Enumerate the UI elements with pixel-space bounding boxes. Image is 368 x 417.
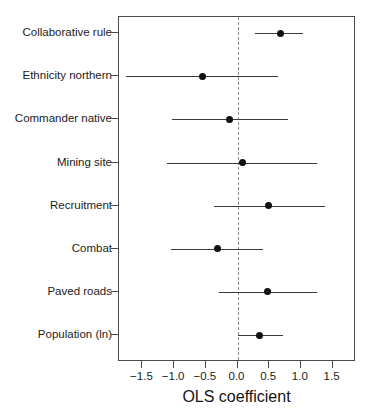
y-axis-tick — [111, 32, 118, 33]
point-estimate-marker — [226, 116, 233, 123]
y-axis-tick — [111, 291, 118, 292]
page-bleed-text — [0, 410, 368, 417]
x-axis-tick — [300, 361, 301, 368]
y-axis-label-paved-roads: Paved roads — [0, 285, 112, 297]
x-axis-tick — [205, 361, 206, 368]
plot-area — [118, 16, 355, 361]
y-axis-label-mining-site: Mining site — [0, 156, 112, 168]
y-axis-tick — [111, 118, 118, 119]
y-axis-label-population-ln: Population (ln) — [0, 328, 112, 340]
coefficient-plot-figure: Collaborative ruleEthnicity northernComm… — [0, 0, 368, 417]
point-estimate-marker — [214, 245, 221, 252]
y-axis-label-combat: Combat — [0, 242, 112, 254]
zero-reference-line — [238, 17, 239, 360]
x-axis-tick — [173, 361, 174, 368]
point-estimate-marker — [265, 202, 272, 209]
y-axis-tick — [111, 248, 118, 249]
point-estimate-marker — [264, 288, 271, 295]
x-axis-title: OLS coefficient — [118, 387, 355, 406]
y-axis-tick — [111, 75, 118, 76]
x-axis-tick — [237, 361, 238, 368]
y-axis-label-collaborative-rule: Collaborative rule — [0, 26, 112, 38]
y-axis-label-commander-native: Commander native — [0, 112, 112, 124]
point-estimate-marker — [277, 30, 284, 37]
y-axis-label-ethnicity-northern: Ethnicity northern — [0, 69, 112, 81]
x-axis-tick-label: 1.5 — [310, 370, 354, 383]
y-axis-tick — [111, 162, 118, 163]
y-axis-tick — [111, 334, 118, 335]
x-axis-tick — [332, 361, 333, 368]
x-axis-tick — [141, 361, 142, 368]
y-axis-tick — [111, 205, 118, 206]
x-axis-tick — [268, 361, 269, 368]
point-estimate-marker — [239, 159, 246, 166]
y-axis-label-recruitment: Recruitment — [0, 199, 112, 211]
point-estimate-marker — [199, 73, 206, 80]
point-estimate-marker — [256, 332, 263, 339]
